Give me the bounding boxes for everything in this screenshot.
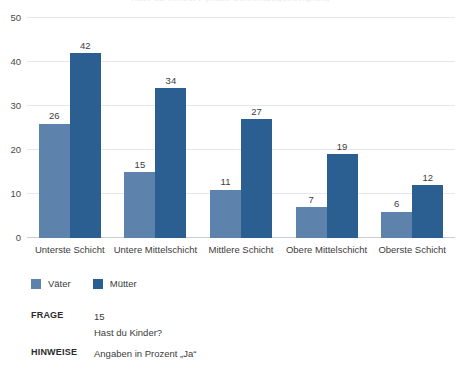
bar-group: 2642 [39,18,101,238]
x-axis-category-labels: Unterste SchichtUntere MittelschichtMitt… [27,244,455,260]
y-axis-tick-label: 20 [10,145,21,155]
bar-group: 1534 [124,18,186,238]
bar-vaeter [296,207,327,238]
bar-vaeter [381,212,412,238]
bar-vaeter [124,172,155,238]
bar-value-label: 27 [251,107,262,117]
x-axis-label: Untere Mittelschicht [113,244,199,255]
y-axis-tick-label: 30 [10,101,21,111]
bar-muetter [70,53,101,238]
y-axis-tick-label: 50 [10,13,21,23]
note-value-frage-text: Hast du Kinder? [94,326,431,339]
bar-group: 612 [381,18,443,238]
legend: Väter Mütter [31,279,137,289]
plot-area: 01020304050 264215341127719612 [27,18,455,238]
bar-group: 719 [296,18,358,238]
x-axis-label: Mittlere Schicht [198,244,284,255]
x-axis-label: Obere Mittelschicht [284,244,370,255]
bar-value-label: 34 [166,76,177,86]
bar-value-label: 12 [422,173,433,183]
legend-label-muetter: Mütter [110,279,137,289]
chart-page: Hast du Kinder? (nach Schichtzugehörigke… [0,0,461,372]
bar-muetter [327,154,358,238]
legend-label-vaeter: Väter [48,279,71,289]
note-row-hinweise: HINWEISE Angaben in Prozent „Ja“ [31,347,431,360]
legend-swatch-icon-muetter [93,279,103,289]
y-axis-tick-label: 0 [16,233,21,243]
legend-item-vaeter: Väter [31,279,71,289]
bar-value-label: 19 [337,142,348,152]
x-axis-label: Unterste Schicht [27,244,113,255]
note-label-hinweise: HINWEISE [31,347,94,357]
note-label-frage: FRAGE [31,310,94,320]
bar-value-label: 6 [394,199,399,209]
legend-swatch-icon-vaeter [31,279,41,289]
y-axis-tick-label: 40 [10,57,21,67]
bar-muetter [155,88,186,238]
note-value-frage-number: 15 [94,310,105,323]
legend-item-muetter: Mütter [93,279,137,289]
footer-notes: FRAGE 15 Hast du Kinder? HINWEISE Angabe… [31,310,431,363]
bar-value-label: 7 [308,195,313,205]
note-value-hinweise-text: Angaben in Prozent „Ja“ [94,347,196,360]
bar-group: 1127 [210,18,272,238]
bar-vaeter [210,190,241,238]
x-axis-label: Oberste Schicht [369,244,455,255]
bars-layer: 264215341127719612 [27,18,455,238]
y-axis-tick-label: 10 [10,189,21,199]
bar-vaeter [39,124,70,238]
bar-value-label: 26 [49,111,60,121]
note-row-frage: FRAGE 15 [31,310,431,323]
bar-value-label: 42 [80,41,91,51]
bar-muetter [241,119,272,238]
bar-value-label: 15 [135,160,146,170]
bar-muetter [412,185,443,238]
chart-title: Hast du Kinder? (nach Schichtzugehörigke… [0,0,461,2]
bar-value-label: 11 [221,177,231,187]
